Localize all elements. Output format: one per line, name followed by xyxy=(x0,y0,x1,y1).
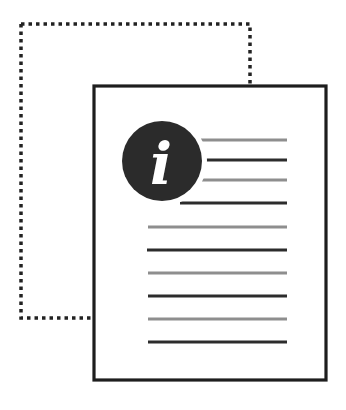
info-icon: i xyxy=(117,116,207,206)
illustration-svg: i xyxy=(0,0,346,410)
front-page xyxy=(94,86,326,380)
document-info-illustration: i xyxy=(0,0,346,410)
info-glyph: i xyxy=(150,130,172,198)
